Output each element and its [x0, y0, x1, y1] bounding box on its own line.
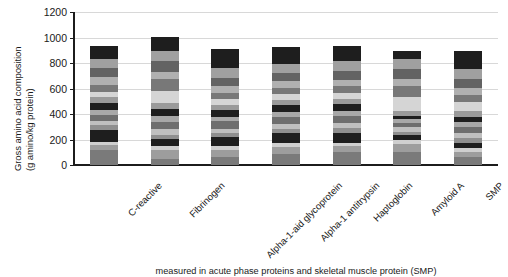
- x-axis-tick-label: SMP: [483, 180, 505, 202]
- bar-segment: [272, 47, 300, 64]
- figure-caption: measured in acute phase proteins and ske…: [96, 266, 496, 277]
- y-axis-tick-label: 1000: [44, 32, 67, 44]
- bar-segment: [333, 152, 361, 165]
- x-axis-tick-label: Amyloid A: [429, 180, 467, 218]
- bar-segment: [90, 150, 118, 165]
- bar-segment: [272, 64, 300, 73]
- stacked-bar: [393, 51, 421, 165]
- bar-segment: [151, 159, 179, 165]
- gridline: [74, 38, 498, 39]
- bar-segment: [151, 109, 179, 116]
- y-axis-tick-label: 0: [61, 159, 67, 171]
- bar-segment: [393, 69, 421, 79]
- y-axis-title-line-2: (g amino/kg protein): [24, 89, 36, 171]
- y-axis-title: Gross amino acid composition (g amino/kg…: [0, 0, 34, 175]
- bar-segment: [393, 144, 421, 152]
- bar-segment: [272, 73, 300, 82]
- bar-segment: [454, 69, 482, 79]
- stacked-bar: [272, 47, 300, 165]
- bar-segment: [211, 93, 239, 100]
- bar-segment: [90, 130, 118, 142]
- bar-segment: [393, 97, 421, 111]
- bar-segment: [211, 150, 239, 157]
- stacked-bar: [454, 51, 482, 165]
- bar-segment: [393, 51, 421, 59]
- bar-segment: [333, 61, 361, 71]
- bar-segment: [151, 72, 179, 79]
- bar-segment: [454, 102, 482, 111]
- bar-segment: [454, 79, 482, 88]
- bar-segment: [333, 86, 361, 93]
- stacked-bar: [151, 37, 179, 165]
- y-axis-tick-label: 400: [49, 108, 67, 120]
- x-axis-tick-label: Fibrinogen: [187, 180, 226, 219]
- bar-segment: [90, 103, 118, 110]
- gridline: [74, 12, 498, 13]
- bar-segment: [90, 85, 118, 93]
- bar-segment: [272, 88, 300, 95]
- x-axis-tick-label: C-reactive: [126, 180, 164, 218]
- bar-segment: [272, 154, 300, 164]
- bar-segment: [454, 157, 482, 165]
- bar-segment: [333, 80, 361, 87]
- bar-segment: [272, 133, 300, 143]
- y-axis-line: [73, 12, 75, 165]
- plot-area: 020040060080010001200 C-reactiveFibrinog…: [74, 12, 498, 165]
- bar-segment: [393, 79, 421, 86]
- stacked-bar: [90, 46, 118, 165]
- y-axis-tick-label: 600: [49, 83, 67, 95]
- bar-segment: [272, 147, 300, 155]
- bar-segment: [333, 71, 361, 80]
- bar-segment: [151, 37, 179, 51]
- stacked-bar: [333, 46, 361, 165]
- bar-segment: [393, 86, 421, 98]
- bar-segment: [333, 133, 361, 143]
- bar-segment: [272, 105, 300, 112]
- bar-segment: [333, 46, 361, 61]
- bar-segment: [454, 51, 482, 69]
- y-axis-title-line-1: Gross amino acid composition: [12, 47, 24, 171]
- bar-segment: [90, 77, 118, 84]
- bar-segment: [211, 68, 239, 78]
- bar-segment: [211, 49, 239, 67]
- bar-segment: [151, 61, 179, 71]
- y-axis-tick-label: 1200: [44, 6, 67, 18]
- bar-segment: [151, 51, 179, 61]
- bar-segment: [333, 116, 361, 123]
- bar-segment: [211, 78, 239, 87]
- bar-segment: [151, 150, 179, 159]
- bar-segment: [90, 46, 118, 59]
- bar-segment: [211, 121, 239, 128]
- y-axis-tick-label: 200: [49, 134, 67, 146]
- y-axis-tick-label: 800: [49, 57, 67, 69]
- bar-segment: [151, 122, 179, 130]
- bar-segment: [90, 68, 118, 77]
- bar-segment: [90, 59, 118, 69]
- bar-segment: [393, 152, 421, 165]
- bar-segment: [151, 79, 179, 91]
- bar-segment: [393, 59, 421, 69]
- chart-figure: Gross amino acid composition (g amino/kg…: [0, 0, 508, 277]
- bar-segment: [211, 137, 239, 146]
- bar-segment: [211, 157, 239, 165]
- stacked-bar: [211, 49, 239, 165]
- bar-segment: [151, 91, 179, 103]
- bar-segment: [454, 95, 482, 102]
